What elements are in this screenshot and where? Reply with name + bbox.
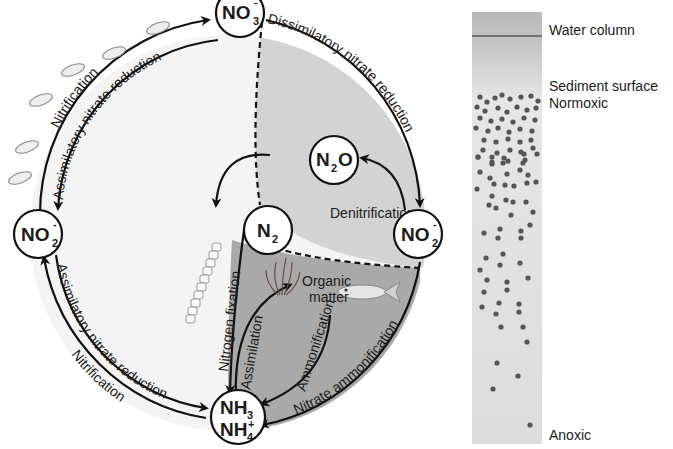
cycle-diagram: Nitrification Assimilatory nitrate reduc… <box>7 0 480 449</box>
node-no3-top: NO 3 - <box>216 0 264 37</box>
svg-text:4: 4 <box>247 431 254 443</box>
node-no2-right: NO 2 - <box>394 210 442 258</box>
svg-text:NO: NO <box>401 224 430 245</box>
label-organic-matter-2: matter <box>309 289 349 305</box>
sediment-column <box>472 12 542 444</box>
svg-text:2: 2 <box>432 237 438 249</box>
svg-text:NO: NO <box>222 2 251 23</box>
svg-text:NO: NO <box>21 224 50 245</box>
svg-text:2: 2 <box>272 233 278 245</box>
svg-text:-: - <box>254 0 258 8</box>
label-anoxic: Anoxic <box>549 427 591 443</box>
node-nh3-nh4: NH 3 NH 4 + <box>211 390 265 444</box>
svg-text:2: 2 <box>331 162 337 174</box>
label-sediment-surface: Sediment surface <box>549 78 658 94</box>
svg-text:N: N <box>316 149 330 170</box>
svg-text:-: - <box>53 218 57 230</box>
label-organic-matter-1: Organic <box>302 273 351 289</box>
svg-text:NH: NH <box>220 397 247 418</box>
node-no2-left: NO 2 - <box>14 210 62 258</box>
svg-text:2: 2 <box>52 237 58 249</box>
svg-text:-: - <box>433 218 437 230</box>
svg-text:N: N <box>257 220 271 241</box>
svg-text:O: O <box>338 149 353 170</box>
svg-text:+: + <box>248 418 254 430</box>
label-normoxic: Normoxic <box>549 95 608 111</box>
svg-text:3: 3 <box>253 15 259 27</box>
svg-text:NH: NH <box>220 419 247 440</box>
node-n2: N 2 <box>244 206 292 254</box>
label-water-column: Water column <box>549 22 635 38</box>
node-n2o: N 2 O <box>310 136 358 184</box>
nitrogen-cycle-figure: Nitrification Assimilatory nitrate reduc… <box>0 0 673 449</box>
